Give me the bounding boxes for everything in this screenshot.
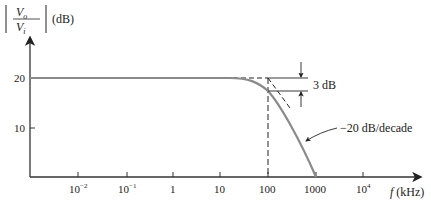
x-ticks (78, 172, 363, 177)
x-tick-1000: 1000 (304, 183, 327, 195)
x-tick-100: 100 (259, 183, 276, 195)
x-tick-0.1: 10−1 (118, 182, 137, 195)
svg-text:Vi: Vi (16, 20, 26, 36)
asymptote-dashed-slope (268, 78, 290, 108)
y-label-numerator-sub: o (23, 12, 27, 21)
y-axis-label: Vo Vi (dB) (6, 5, 74, 36)
y-tick-20: 20 (14, 72, 26, 84)
slope-annotation: −20 dB/decade (306, 121, 412, 141)
three-db-annotation: 3 dB (268, 62, 336, 107)
y-label-unit: (dB) (52, 12, 74, 26)
frequency-response-diagram: Vo Vi (dB) 20 10 10−2 10−1 1 10 100 1000… (0, 0, 431, 202)
response-curve (30, 78, 316, 177)
three-db-label: 3 dB (313, 78, 336, 92)
x-tick-10000: 104 (356, 182, 371, 195)
x-tick-1: 1 (170, 183, 176, 195)
y-label-denominator-sub: i (23, 27, 25, 36)
x-tick-0.01: 10−2 (69, 182, 88, 195)
slope-label: −20 dB/decade (340, 121, 412, 135)
x-axis-label: f(kHz) (390, 185, 424, 199)
y-tick-10: 10 (14, 122, 26, 134)
x-tick-10: 10 (214, 183, 226, 195)
